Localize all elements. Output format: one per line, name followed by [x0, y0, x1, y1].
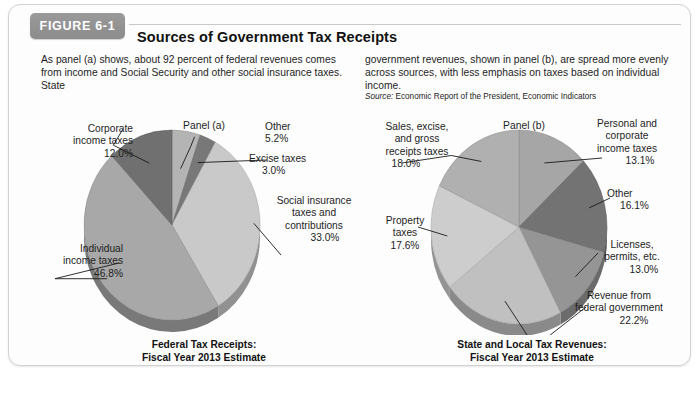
pie-b-label-sales-excise-gross-receipts: Sales, excise, and gross receipts taxes … — [367, 121, 467, 171]
pie-b-label-other: Other 16.1% — [607, 188, 677, 213]
pie-a-label-other: Other 5.2% — [265, 121, 345, 146]
title-divider — [129, 24, 681, 25]
pie-b-label-personal-corporate-income-taxes: Personal and corporate income taxes 13.1… — [577, 118, 677, 168]
pie-a-caption: Federal Tax Receipts: Fiscal Year 2013 E… — [104, 338, 304, 364]
pie-b-label-revenue-from-federal-government: Revenue from federal government 22.2% — [555, 290, 683, 327]
pie-a-label-individual-income-taxes: Individual income taxes 46.8% — [29, 243, 123, 280]
figure-title: Sources of Government Tax Receipts — [137, 29, 397, 45]
source-label: Source: — [365, 92, 393, 101]
pie-a-label-excise-taxes: Excise taxes 3.0% — [249, 153, 345, 178]
figure-frame: FIGURE 6-1 Sources of Government Tax Rec… — [8, 4, 691, 366]
intro-paragraph-right: government revenues, shown in panel (b),… — [365, 53, 683, 93]
pie-a-label-corporate-income-taxes: Corporate income taxes 12.0% — [43, 123, 133, 160]
pie-a-label-social-insurance: Social insurance taxes and contributions… — [262, 195, 366, 245]
pie-b-label-property-taxes: Property taxes 17.6% — [371, 215, 439, 252]
figure-number-badge: FIGURE 6-1 — [30, 13, 125, 39]
intro-paragraph-left: As panel (a) shows, about 92 percent of … — [41, 53, 351, 93]
source-text: Economic Report of the President, Econom… — [396, 92, 597, 101]
pie-b-caption: State and Local Tax Revenues: Fiscal Yea… — [417, 338, 647, 364]
source-note: Source: Economic Report of the President… — [365, 91, 695, 102]
pie-b-label-licenses-permits: Licenses, permits, etc. 13.0% — [585, 239, 679, 276]
